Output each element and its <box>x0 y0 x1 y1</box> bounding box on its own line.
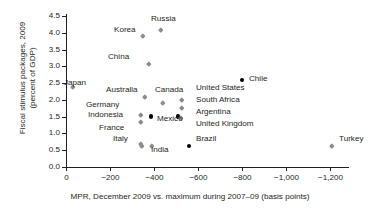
x-tick-label: −600 <box>189 173 207 182</box>
data-point-korea <box>140 34 145 39</box>
data-point-australia <box>142 95 147 100</box>
data-point-mexico <box>149 114 153 118</box>
x-tick-label: −800 <box>233 173 251 182</box>
data-point-canada <box>160 100 165 105</box>
y-tick-label: 3.0 <box>49 61 60 70</box>
x-tick-label: 0 <box>64 173 69 182</box>
data-label-indonesia: Indonesia <box>88 110 123 119</box>
data-label-australia: Australia <box>106 85 138 94</box>
y-tick: 3.0 <box>62 66 66 67</box>
data-point-russia <box>158 27 163 32</box>
data-point-united-states <box>179 97 184 102</box>
x-tick: −1,200 <box>330 167 331 171</box>
x-axis-title: MPR, December 2009 vs. maximum during 20… <box>0 192 380 201</box>
y-tick: 4.0 <box>62 33 66 34</box>
x-tick: −600 <box>198 167 199 171</box>
data-point-turkey <box>329 144 334 149</box>
y-tick-label: 1.0 <box>49 128 60 137</box>
data-point-italy <box>139 144 144 149</box>
x-axis-line <box>66 167 349 168</box>
data-point-china <box>146 61 151 66</box>
y-axis-title: Fiscal stimulus packages, 2009 (percent … <box>18 0 38 168</box>
data-label-chile: Chile <box>249 74 267 83</box>
data-label-italy: Italy <box>113 134 128 143</box>
y-tick: 1.0 <box>62 133 66 134</box>
y-tick: 4.5 <box>62 16 66 17</box>
y-tick: 3.5 <box>62 50 66 51</box>
x-tick-label: −200 <box>101 173 119 182</box>
data-label-brazil: Brazil <box>196 134 216 143</box>
data-point-south-africa <box>179 105 184 110</box>
data-label-turkey: Turkey <box>339 134 363 143</box>
data-point-germany <box>138 112 143 117</box>
y-tick: 1.5 <box>62 117 66 118</box>
x-tick: −200 <box>110 167 111 171</box>
y-tick-label: 1.5 <box>49 112 60 121</box>
y-tick-label: 0.0 <box>49 162 60 171</box>
y-tick: 2.0 <box>62 100 66 101</box>
y-tick-label: 4.5 <box>49 11 60 20</box>
data-label-japan: Japan <box>64 78 86 87</box>
data-point-indonesia <box>138 119 143 124</box>
data-label-russia: Russia <box>151 14 176 23</box>
y-tick-label: 3.5 <box>49 45 60 54</box>
data-label-india: India <box>151 145 169 154</box>
data-label-china: China <box>108 52 129 61</box>
data-label-argentina: Argentina <box>196 107 231 116</box>
data-label-south-africa: South Africa <box>196 95 240 104</box>
data-label-united-states: United States <box>196 83 245 92</box>
y-tick-label: 0.5 <box>49 145 60 154</box>
y-tick: 0.5 <box>62 150 66 151</box>
y-axis-line <box>66 14 67 168</box>
data-label-korea: Korea <box>114 25 136 34</box>
y-tick-label: 4.0 <box>49 28 60 37</box>
scatter-chart: Fiscal stimulus packages, 2009 (percent … <box>0 0 380 213</box>
data-point-brazil <box>187 144 191 148</box>
data-point-chile <box>240 78 244 82</box>
x-tick: −800 <box>242 167 243 171</box>
y-tick-label: 2.0 <box>49 95 60 104</box>
data-label-mexico: Mexico <box>157 114 183 123</box>
x-tick-label: −1,200 <box>318 173 343 182</box>
y-tick-label: 2.5 <box>49 78 60 87</box>
data-label-canada: Canada <box>155 85 183 94</box>
x-tick: 0 <box>66 167 67 171</box>
data-label-united-kingdom: United Kingdom <box>196 119 254 128</box>
data-label-germany: Germany <box>86 100 119 109</box>
x-tick: −1,000 <box>286 167 287 171</box>
x-tick-label: −1,000 <box>274 173 299 182</box>
data-label-france: France <box>99 123 124 132</box>
x-tick: −400 <box>154 167 155 171</box>
x-tick-label: −400 <box>145 173 163 182</box>
